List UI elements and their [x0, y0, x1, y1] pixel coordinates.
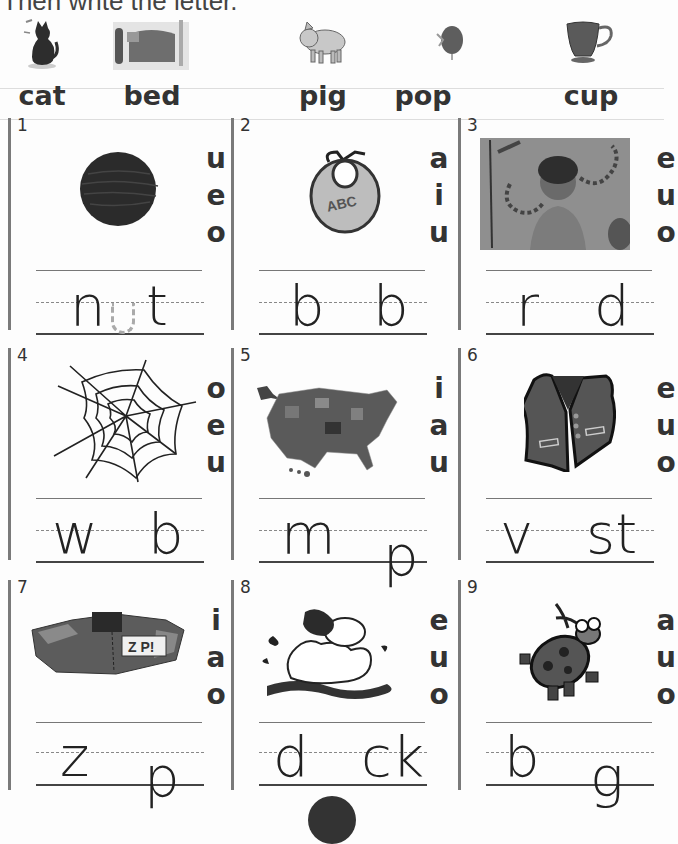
vowel-choice[interactable]: o — [656, 444, 675, 481]
word-letters: m p — [259, 506, 427, 562]
guide-line-top — [36, 498, 202, 499]
vowel-choice[interactable]: u — [206, 140, 226, 177]
vowel-choice[interactable]: e — [207, 407, 226, 444]
answer-blank[interactable] — [538, 532, 566, 562]
item-divider — [231, 118, 234, 330]
answer-blank[interactable] — [102, 532, 130, 562]
boy-with-rod-icon — [480, 138, 630, 250]
guide-line-top — [486, 270, 652, 271]
zap-text: Z P! — [128, 639, 154, 655]
item-2: 2 ABC a i u b b — [231, 118, 451, 348]
spider-web-icon — [46, 356, 206, 486]
vowel-choice[interactable]: o — [206, 370, 225, 407]
vowel-choice[interactable]: u — [429, 444, 449, 481]
guide-line-top — [36, 722, 202, 723]
vowel-choices: e u o — [427, 602, 451, 713]
letter-after: t — [146, 278, 168, 334]
vowel-choice[interactable]: o — [429, 676, 448, 713]
vowel-choices: i a u — [427, 370, 451, 481]
vowel-choice[interactable]: a — [657, 602, 676, 639]
vest-icon — [524, 370, 616, 472]
vowel-choice[interactable]: o — [656, 214, 675, 251]
item-8: 8 e u o d ck — [231, 580, 451, 810]
vowel-choice[interactable]: o — [206, 676, 225, 713]
letter-before: n — [70, 278, 106, 334]
vowel-choice[interactable]: e — [430, 602, 449, 639]
guide-line-top — [259, 722, 425, 723]
answer-blank[interactable] — [327, 304, 355, 334]
vowel-choice[interactable]: i — [434, 370, 444, 407]
vowel-choice[interactable]: u — [656, 407, 676, 444]
answer-blank[interactable] — [552, 304, 580, 334]
letter-before: v — [500, 506, 533, 562]
vowel-choice[interactable]: e — [657, 370, 676, 407]
item-1: 1 u e o n t — [8, 118, 228, 348]
instruction-text: Then write the letter. — [2, 0, 238, 17]
letter-before: d — [273, 729, 309, 785]
key-word-pig: pig — [299, 80, 347, 111]
letter-before: m — [281, 506, 336, 562]
letter-after: p — [383, 528, 419, 584]
guide-line-top — [259, 270, 425, 271]
vowel-choice[interactable]: a — [207, 639, 226, 676]
vowel-choices: e u o — [654, 370, 678, 481]
answer-blank[interactable] — [111, 303, 135, 334]
letter-before: b — [289, 278, 325, 334]
vowel-choice[interactable]: a — [430, 407, 449, 444]
vowel-choice[interactable]: u — [656, 639, 676, 676]
letter-after: d — [594, 278, 630, 334]
letter-before: b — [504, 729, 540, 785]
key-word-cup: cup — [564, 80, 619, 111]
vowel-choices: u e o — [204, 140, 228, 251]
vowel-choice[interactable]: e — [207, 177, 226, 214]
word-letters: z p — [36, 729, 204, 785]
word-letters: d ck — [259, 729, 427, 785]
duck-icon — [261, 606, 401, 706]
word-letters: r d — [486, 278, 654, 334]
vowel-choices: a i u — [427, 140, 451, 251]
vowel-choice[interactable]: e — [657, 140, 676, 177]
letter-before: z — [60, 729, 89, 785]
balloon-pop-icon — [435, 24, 465, 62]
item-number: 1 — [17, 115, 28, 135]
vowel-choice[interactable]: u — [429, 639, 449, 676]
item-number: 2 — [240, 115, 251, 135]
key-word-pop: pop — [394, 80, 451, 111]
vowel-choice[interactable]: o — [656, 676, 675, 713]
vowel-choice[interactable]: a — [430, 140, 449, 177]
vowel-choices: e u o — [654, 140, 678, 251]
item-divider — [8, 580, 11, 790]
answer-blank[interactable] — [102, 755, 130, 785]
item-divider — [231, 580, 234, 790]
vowel-choice[interactable]: i — [211, 602, 221, 639]
vowel-choices: i a o — [204, 602, 228, 713]
guide-line-top — [36, 270, 202, 271]
item-4: 4 o e u w b — [8, 348, 228, 578]
item-3: 3 e u o r d — [458, 118, 678, 348]
item-number: 4 — [17, 345, 28, 365]
guide-line-top — [486, 722, 652, 723]
letter-before: r — [516, 278, 539, 334]
vowel-choice[interactable]: i — [434, 177, 444, 214]
guide-line-top — [486, 498, 652, 499]
answer-blank[interactable] — [323, 755, 351, 785]
letter-after: st — [586, 506, 637, 562]
vowel-choice[interactable]: u — [429, 214, 449, 251]
answer-blank[interactable] — [548, 755, 576, 785]
vowel-choice[interactable]: u — [206, 444, 226, 481]
vowel-choice[interactable]: u — [656, 177, 676, 214]
word-letters: b g — [486, 729, 654, 785]
item-divider — [458, 348, 461, 560]
vowel-choices: a u o — [654, 602, 678, 713]
item-number: 3 — [467, 115, 478, 135]
bed-icon — [113, 18, 189, 70]
letter-after: g — [590, 749, 624, 805]
vowel-choice[interactable]: o — [206, 214, 225, 251]
letter-after: ck — [361, 729, 424, 785]
answer-blank[interactable] — [341, 532, 369, 562]
item-divider — [458, 580, 461, 790]
us-map-icon — [255, 382, 405, 478]
item-divider — [231, 348, 234, 560]
page-number-badge — [308, 796, 356, 844]
item-divider — [8, 348, 11, 560]
